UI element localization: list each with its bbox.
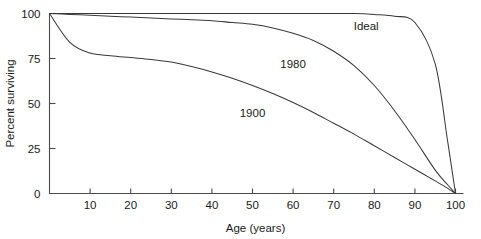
curve-ideal	[50, 13, 456, 193]
series-label-1900: 1900	[240, 107, 266, 119]
survival-curve-figure: 1020304050607080901000255075100 Ideal198…	[0, 0, 481, 239]
x-tick-label: 30	[165, 199, 178, 211]
y-tick-label: 25	[28, 143, 41, 155]
x-tick-label: 60	[287, 199, 300, 211]
chart-canvas: 1020304050607080901000255075100 Ideal198…	[0, 0, 481, 239]
series-label-1980: 1980	[280, 58, 306, 70]
x-tick-label: 70	[327, 199, 340, 211]
x-tick-label: 90	[409, 199, 422, 211]
y-tick-label: 100	[21, 8, 40, 20]
x-tick-label: 20	[124, 199, 137, 211]
x-tick-label: 40	[206, 199, 219, 211]
x-tick-label: 10	[84, 199, 97, 211]
y-tick-label: 0	[34, 188, 40, 200]
y-tick-label: 75	[28, 53, 41, 65]
curve-1980	[50, 14, 456, 194]
x-tick-label: 100	[446, 199, 465, 211]
series-label-ideal: Ideal	[354, 20, 379, 32]
curve-1900	[50, 14, 456, 194]
survival-curves	[50, 13, 456, 193]
y-tick-label: 50	[28, 98, 41, 110]
x-tick-label: 80	[368, 199, 381, 211]
tick-marks	[50, 14, 456, 194]
x-axis-label: Age (years)	[226, 222, 286, 234]
y-axis-label: Percent surviving	[4, 59, 16, 147]
axes	[50, 13, 464, 194]
x-tick-label: 50	[246, 199, 259, 211]
